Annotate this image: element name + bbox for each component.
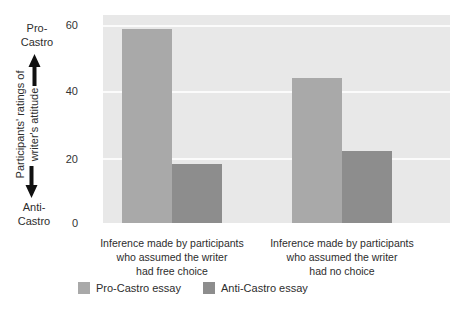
bar-pro-castro-free-choice — [122, 29, 172, 223]
down-arrow-icon — [25, 166, 38, 198]
y-tick-60: 60 — [38, 18, 78, 32]
x-category-line: who assumed the writer — [81, 250, 263, 264]
plot-area — [103, 15, 450, 223]
anti-castro-swatch-icon — [203, 282, 215, 294]
bar-chart-figure: Pro- Castro Participants' ratings of wri… — [0, 0, 461, 316]
x-category-line: Inference made by participants — [81, 236, 263, 250]
y-tick-0: 0 — [38, 216, 78, 230]
bar-anti-castro-free-choice — [172, 164, 222, 223]
bar-pro-castro-no-choice — [292, 78, 342, 223]
pro-label-line2: Castro — [9, 36, 65, 50]
y-tick-20: 20 — [38, 152, 78, 166]
y-axis-title-line1: Participants' ratings of — [14, 70, 28, 180]
y-axis-title: Participants' ratings of writer's attitu… — [14, 70, 41, 180]
x-category-line: Inference made by participants — [251, 236, 433, 250]
x-category-line: who assumed the writer — [251, 250, 433, 264]
legend: Pro-Castro essay Anti-Castro essay — [78, 282, 308, 294]
x-category-line: had no choice — [251, 264, 433, 278]
legend-item-pro-castro: Pro-Castro essay — [78, 282, 181, 294]
x-category-no-choice: Inference made by participants who assum… — [251, 236, 433, 278]
y-tick-40: 40 — [38, 84, 78, 98]
bar-anti-castro-no-choice — [342, 151, 392, 223]
pro-castro-swatch-icon — [78, 282, 90, 294]
legend-item-anti-castro: Anti-Castro essay — [203, 282, 308, 294]
x-category-line: had free choice — [81, 264, 263, 278]
gridline-60 — [103, 25, 450, 27]
anti-label-line1: Anti- — [6, 201, 62, 215]
x-category-free-choice: Inference made by participants who assum… — [81, 236, 263, 278]
legend-label-pro-castro: Pro-Castro essay — [96, 282, 181, 294]
legend-label-anti-castro: Anti-Castro essay — [221, 282, 308, 294]
